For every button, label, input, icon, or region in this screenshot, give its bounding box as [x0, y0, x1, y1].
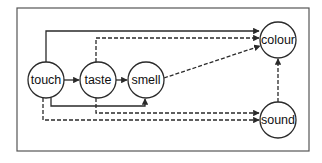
node-label-colour: colour	[261, 33, 295, 47]
edge-taste-colour	[96, 38, 259, 62]
diagram-canvas: touch taste smell colour sound	[0, 0, 322, 163]
edge-touch-sound	[43, 98, 259, 120]
node-label-taste: taste	[84, 73, 111, 87]
node-label-touch: touch	[31, 73, 62, 87]
node-label-sound: sound	[261, 113, 295, 127]
edge-smell-colour	[164, 46, 260, 78]
node-label-smell: smell	[131, 73, 160, 87]
